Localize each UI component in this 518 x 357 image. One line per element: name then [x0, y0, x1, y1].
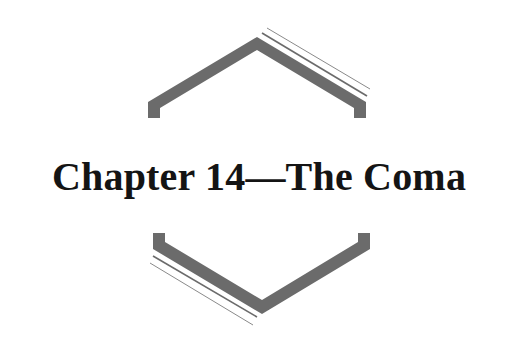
chevron-down-ornament-icon: [0, 0, 518, 357]
